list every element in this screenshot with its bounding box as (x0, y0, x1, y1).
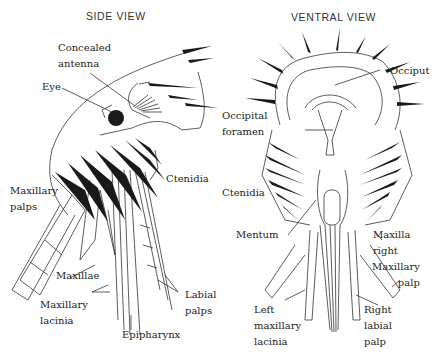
label-left-maxillary-lacinia: Left maxillary lacinia (254, 302, 301, 350)
label-maxillary-palps: Maxillary palps (10, 183, 58, 215)
label-maxillary-palp: Maxillary palp (372, 259, 420, 291)
label-eye: Eye (42, 79, 61, 95)
side-view-title: SIDE VIEW (86, 10, 146, 22)
label-maxillary-lacinia: Maxillary lacinia (40, 297, 88, 329)
label-labial-palps: Labial palps (185, 287, 216, 319)
eye-icon (108, 110, 124, 126)
label-maxillae: Maxillae (56, 268, 99, 284)
ventral-view-title: VENTRAL VIEW (291, 11, 376, 23)
label-occipital-foramen: Occipital foramen (222, 108, 267, 140)
label-maxilla-right: Maxilla right (373, 227, 410, 259)
label-right-labial-palp: Right labial palp (364, 302, 392, 350)
label-occiput: Occiput (390, 63, 429, 79)
label-epipharynx: Epipharynx (122, 327, 180, 343)
flea-head-diagram: SIDE VIEW VENTRAL VIEW Concealed antenna… (0, 0, 442, 364)
label-ctenidia-side: Ctenidia (166, 171, 209, 187)
label-mentum: Mentum (236, 227, 279, 243)
label-ctenidia-ventral: Ctenidia (222, 185, 265, 201)
label-concealed-antenna: Concealed antenna (58, 40, 111, 72)
